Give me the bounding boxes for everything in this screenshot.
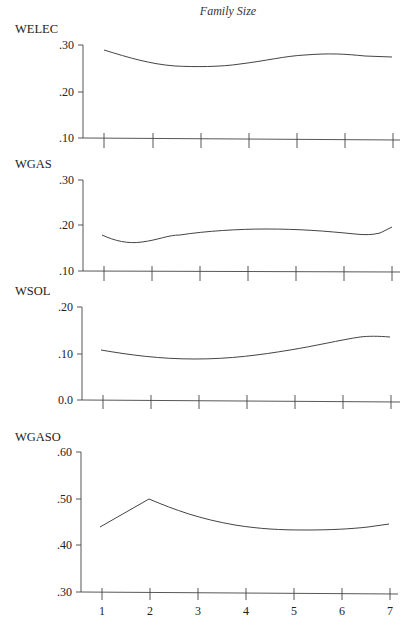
y-tick-label: .30 [59,38,74,52]
y-tick-label: .10 [59,264,74,278]
figure: Family Size WELEC .30 .20 .10 WGAS .30 .… [0,0,411,629]
x-tick-label: 5 [291,604,297,618]
x-tick-label: 1 [99,604,105,618]
y-tick-label: 0.0 [58,393,73,407]
x-axis [81,592,398,594]
y-tick-label: .30 [59,173,74,187]
y-tick-label: .20 [59,218,74,232]
panel-wsol: WSOL .20 .10 0.0 [15,284,400,409]
x-tick-label: 2 [147,604,153,618]
y-tick-label: .60 [57,445,72,459]
y-tick-label: .30 [57,585,72,599]
x-tick-labels: 1 2 3 4 5 6 7 [99,604,393,618]
x-ticks [104,266,392,281]
panel-label: WGAS [15,157,52,171]
x-axis [83,271,400,272]
panel-label: WSOL [15,284,50,298]
series-line-welec [104,50,392,67]
x-ticks [104,133,393,148]
series-line-wsol [101,336,390,359]
series-line-wgaso [100,499,389,530]
panel-label: WELEC [15,22,58,36]
x-tick-label: 4 [243,604,249,618]
panel-wgaso: WGASO .60 .50 .40 .30 1 2 3 4 5 6 7 [15,430,398,618]
x-tick-label: 6 [339,604,345,618]
x-axis [83,138,400,140]
figure-title: Family Size [199,4,257,18]
y-tick-label: .20 [58,300,73,314]
x-tick-label: 7 [387,604,393,618]
y-tick-label: .50 [57,492,72,506]
panel-wgas: WGAS .30 .20 .10 [15,157,400,281]
y-tick-label: .20 [59,85,74,99]
x-axis [82,400,400,402]
series-line-wgas [102,227,392,243]
y-tick-label: .40 [57,538,72,552]
x-tick-label: 3 [195,604,201,618]
panel-welec: WELEC .30 .20 .10 [15,22,400,148]
panel-label: WGASO [15,430,61,444]
y-tick-label: .10 [58,347,73,361]
y-tick-label: .10 [59,131,74,145]
